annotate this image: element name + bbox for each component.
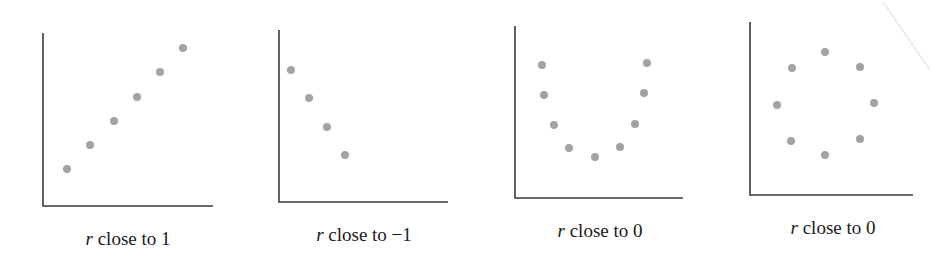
data-point bbox=[856, 63, 864, 71]
data-point bbox=[821, 48, 829, 56]
data-point bbox=[63, 165, 71, 173]
scatter-panel-1 bbox=[43, 33, 213, 206]
data-point bbox=[287, 66, 295, 74]
data-point bbox=[538, 61, 546, 69]
data-point bbox=[110, 117, 118, 125]
scatter-panels bbox=[0, 0, 938, 253]
caption-text: close to −1 bbox=[328, 224, 412, 245]
data-point bbox=[591, 153, 599, 161]
caption-panel-1: r close to 1 bbox=[86, 228, 171, 250]
caption-panel-3: r close to 0 bbox=[558, 220, 643, 242]
data-point bbox=[156, 68, 164, 76]
data-point bbox=[540, 91, 548, 99]
r-variable: r bbox=[791, 217, 798, 238]
data-point bbox=[305, 94, 313, 102]
caption-panel-2: r close to −1 bbox=[316, 224, 412, 246]
caption-text: close to 0 bbox=[803, 217, 876, 238]
axes-lines bbox=[515, 26, 683, 198]
data-point bbox=[323, 123, 331, 131]
data-point bbox=[856, 135, 864, 143]
r-variable: r bbox=[558, 220, 565, 241]
axes-lines bbox=[279, 30, 448, 202]
data-point bbox=[643, 59, 651, 67]
caption-text: close to 1 bbox=[98, 228, 171, 249]
r-variable: r bbox=[86, 228, 93, 249]
data-point bbox=[550, 121, 558, 129]
page-edge-line bbox=[883, 2, 930, 70]
axes-lines bbox=[43, 33, 213, 206]
data-point bbox=[179, 44, 187, 52]
data-point bbox=[341, 151, 349, 159]
data-point bbox=[631, 120, 639, 128]
data-point bbox=[787, 137, 795, 145]
data-point bbox=[773, 101, 781, 109]
data-point bbox=[870, 99, 878, 107]
caption-text: close to 0 bbox=[570, 220, 643, 241]
data-point bbox=[565, 144, 573, 152]
caption-panel-4: r close to 0 bbox=[791, 217, 876, 239]
r-variable: r bbox=[316, 224, 323, 245]
scatter-panel-4 bbox=[750, 22, 913, 195]
data-point bbox=[616, 143, 624, 151]
data-point bbox=[788, 64, 796, 72]
data-point bbox=[640, 89, 648, 97]
data-point bbox=[821, 151, 829, 159]
axes-lines bbox=[750, 22, 913, 195]
scatter-panel-2 bbox=[279, 30, 448, 202]
scatter-panel-3 bbox=[515, 26, 683, 198]
data-point bbox=[133, 93, 141, 101]
data-point bbox=[86, 141, 94, 149]
